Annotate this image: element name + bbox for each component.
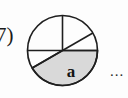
shaded-sector-label: a [67, 62, 76, 81]
trailing-ellipsis: ... [110, 63, 124, 79]
fraction-circle-figure: 7) a ... [0, 0, 128, 98]
shaded-sector-a [32, 51, 97, 86]
radius-line-upper-right-30deg [63, 33, 93, 51]
circle-diagram: a [0, 0, 128, 98]
